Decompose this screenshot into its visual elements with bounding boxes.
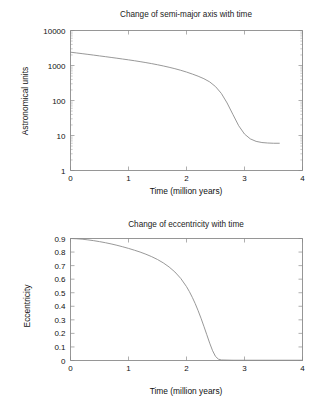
chart-2-y-tick-labels: 00.10.20.30.40.50.60.70.80.9 — [54, 235, 66, 366]
chart-2-y-tick-label: 0.4 — [54, 302, 66, 311]
chart-2-x-tick-label: 4 — [300, 364, 305, 373]
chart-1-tick-marks — [71, 31, 303, 171]
chart-eccentricity: Change of eccentricity with time Eccentr… — [0, 205, 321, 410]
chart-2-y-tick-label: 0.7 — [54, 262, 66, 271]
chart-1-x-tick-label: 1 — [126, 174, 131, 183]
chart-2-x-tick-label: 1 — [126, 364, 131, 373]
chart-2-y-tick-label: 0.8 — [54, 248, 66, 257]
chart-2-x-tick-label: 3 — [242, 364, 247, 373]
chart-2-x-tick-label: 2 — [184, 364, 189, 373]
chart-1-axis-frame — [71, 31, 303, 171]
chart-1-y-tick-label: 1 — [61, 167, 66, 176]
chart-2-x-tick-labels: 01234 — [68, 364, 305, 373]
chart-2-canvas: Change of eccentricity with time Eccentr… — [0, 205, 321, 410]
chart-1-x-tick-label: 0 — [68, 174, 73, 183]
chart-2-x-tick-label: 0 — [68, 364, 73, 373]
chart-1-x-tick-label: 4 — [300, 174, 305, 183]
chart-1-y-tick-label: 100 — [52, 97, 66, 106]
chart-1-data-curve — [71, 52, 280, 143]
chart-1-x-tick-label: 3 — [242, 174, 247, 183]
chart-2-y-tick-label: 0 — [61, 357, 66, 366]
chart-2-y-tick-label: 0.3 — [54, 316, 66, 325]
chart-1-canvas: Change of semi-major axis with time Astr… — [0, 0, 321, 205]
chart-1-x-axis-label: Time (million years) — [150, 186, 223, 196]
chart-1-x-tick-label: 2 — [184, 174, 189, 183]
chart-1-title: Change of semi-major axis with time — [120, 10, 252, 19]
chart-2-axis-lines — [71, 239, 303, 361]
chart-1-y-tick-label: 10000 — [43, 27, 66, 36]
chart-2-y-tick-label: 0.5 — [54, 289, 66, 298]
chart-2-y-tick-label: 0.1 — [54, 343, 66, 352]
chart-1-y-tick-label: 1000 — [48, 62, 66, 71]
chart-1-x-tick-labels: 01234 — [68, 174, 305, 183]
chart-2-title: Change of eccentricity with time — [128, 220, 244, 229]
chart-semi-major-axis: Change of semi-major axis with time Astr… — [0, 0, 321, 205]
chart-2-data-curve — [71, 239, 303, 361]
chart-2-y-tick-label: 0.9 — [54, 235, 66, 244]
chart-2-axis-frame — [71, 239, 303, 361]
chart-1-y-axis-label: Astronomical units — [20, 67, 30, 135]
chart-2-y-tick-label: 0.2 — [54, 329, 66, 338]
chart-2-tick-marks — [71, 239, 303, 361]
chart-1-y-tick-labels: 110100100010000 — [43, 27, 66, 176]
chart-2-y-axis-label: Eccentricity — [22, 284, 32, 328]
chart-1-axis-lines — [71, 31, 303, 171]
chart-1-y-tick-label: 10 — [57, 132, 66, 141]
chart-2-y-tick-label: 0.6 — [54, 275, 66, 284]
chart-2-x-axis-label: Time (million years) — [150, 386, 223, 396]
